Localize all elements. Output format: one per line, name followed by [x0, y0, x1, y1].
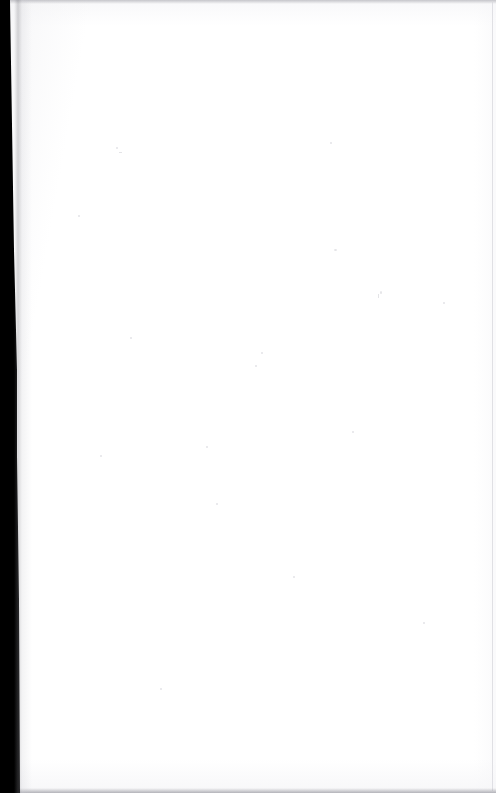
scan-speckle — [100, 455, 102, 457]
scan-speckle — [116, 147, 118, 149]
scan-speckle — [255, 365, 257, 367]
scan-speckle — [378, 294, 379, 298]
scan-speckle — [206, 446, 208, 448]
scan-speckle — [380, 291, 382, 294]
scan-speckle — [334, 249, 337, 251]
paper-tone-overlay — [0, 0, 496, 793]
paper-sheet — [0, 0, 496, 793]
right-edge-rule — [492, 2, 493, 791]
scan-speckle — [330, 142, 332, 144]
scan-speckle — [216, 503, 218, 505]
bottom-edge-shadow — [18, 788, 496, 793]
scanned-page-canvas: Blank page — [0, 0, 496, 793]
top-edge-shadow — [8, 0, 496, 4]
scan-speckle — [261, 352, 263, 354]
scan-speckle — [119, 152, 122, 153]
scan-speckle — [78, 215, 80, 217]
scan-speckle — [293, 576, 295, 578]
scan-speckle — [443, 302, 445, 304]
scan-speckle — [423, 622, 425, 624]
scan-speckle — [352, 431, 354, 433]
scan-speckle — [130, 337, 132, 339]
scan-speckle — [160, 688, 162, 690]
